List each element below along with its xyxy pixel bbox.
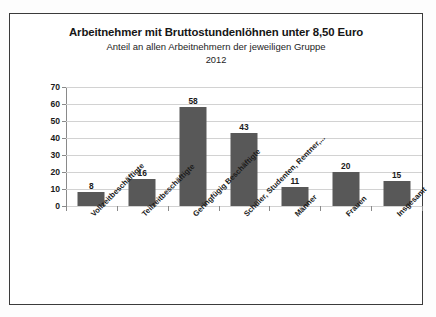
y-axis-tick-mark — [62, 121, 66, 122]
bar-value-label: 20 — [341, 161, 350, 171]
bar-value-label: 11 — [290, 176, 299, 186]
page-title: Arbeitnehmer mit Bruttostundenlöhnen unt… — [10, 25, 422, 39]
bar-value-label: 43 — [239, 122, 248, 132]
bar-value-label: 8 — [89, 181, 94, 191]
gridline — [66, 206, 422, 207]
title-block: Arbeitnehmer mit Bruttostundenlöhnen unt… — [10, 25, 422, 67]
y-axis-tick-mark — [62, 189, 66, 190]
x-axis-tick-mark — [168, 206, 169, 211]
chart-frame: Arbeitnehmer mit Bruttostundenlöhnen unt… — [9, 13, 423, 305]
x-axis-tick-mark — [219, 206, 220, 211]
y-axis-tick-label: 40 — [14, 133, 60, 143]
x-axis-tick-mark — [269, 206, 270, 211]
bar-value-label: 15 — [392, 170, 401, 180]
bar-slot: 20 — [320, 87, 371, 206]
x-axis-tick-mark — [422, 206, 423, 211]
y-axis-tick-label: 50 — [14, 116, 60, 126]
y-axis-tick-label: 10 — [14, 184, 60, 194]
x-axis-tick-mark — [320, 206, 321, 211]
x-axis-tick-mark — [371, 206, 372, 211]
y-axis-tick-mark — [62, 172, 66, 173]
bar-slot: 8 — [66, 87, 117, 206]
y-axis-labels: 706050403020100 — [10, 87, 60, 207]
chart-screenshot: Arbeitnehmer mit Bruttostundenlöhnen unt… — [0, 0, 436, 317]
y-axis-tick-mark — [62, 138, 66, 139]
y-axis-tick-label: 30 — [14, 150, 60, 160]
x-axis-tick-mark — [117, 206, 118, 211]
y-axis-tick-mark — [62, 87, 66, 88]
bar-value-label: 58 — [188, 96, 197, 106]
y-axis-tick-label: 60 — [14, 99, 60, 109]
x-axis-tick-mark — [66, 206, 67, 211]
chart-subtitle: Anteil an allen Arbeitnehmern der jeweil… — [10, 40, 422, 53]
x-axis-category-labels: VollzeitbeschäftigteTeilzeitbeschäftigte… — [66, 212, 423, 297]
y-axis-tick-label: 0 — [14, 201, 60, 211]
bar[interactable] — [180, 107, 207, 206]
chart-year: 2012 — [10, 54, 422, 67]
y-axis-tick-mark — [62, 155, 66, 156]
bar-slot: 15 — [371, 87, 422, 206]
y-axis-tick-label: 70 — [14, 82, 60, 92]
y-axis-tick-mark — [62, 104, 66, 105]
y-axis-tick-label: 20 — [14, 167, 60, 177]
